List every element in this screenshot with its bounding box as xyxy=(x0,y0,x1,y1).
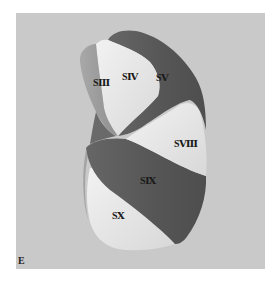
segment-label-s3: SⅢ xyxy=(93,78,110,88)
segment-label-s8: SⅧ xyxy=(174,139,198,149)
lower-lobe-edge xyxy=(83,150,88,220)
segment-label-s9: SⅨ xyxy=(140,176,156,186)
segment-label-s4: SⅣ xyxy=(122,72,138,82)
segment-label-s5: SⅤ xyxy=(156,73,168,83)
segment-label-s10: SⅩ xyxy=(112,211,124,221)
lung-rendering xyxy=(0,0,280,288)
panel-label: E xyxy=(18,256,25,266)
